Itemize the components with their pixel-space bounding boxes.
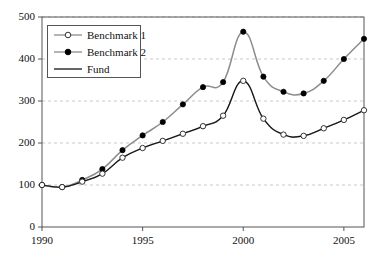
x-axis-tick-label: 2000 xyxy=(218,234,268,246)
legend-symbol-filled-circle-line xyxy=(53,45,83,59)
x-axis-tick-label: 2005 xyxy=(319,234,369,246)
legend-item-benchmark-1: Benchmark 1 xyxy=(48,26,140,43)
legend-symbol-plain-line xyxy=(53,62,83,76)
x-axis-tick-label: 1990 xyxy=(17,234,67,246)
y-axis-tick-label: 100 xyxy=(19,178,36,190)
legend-item-benchmark-2: Benchmark 2 xyxy=(48,43,140,60)
line-chart: 0100200300400500 1990199520002005 Benchm… xyxy=(0,0,378,266)
x-axis-tick-label: 1995 xyxy=(118,234,168,246)
y-axis-tick-label: 200 xyxy=(19,136,36,148)
legend-label-fund: Fund xyxy=(87,63,110,75)
legend-item-fund: Fund xyxy=(48,60,140,77)
chart-legend: Benchmark 1 Benchmark 2 Fund xyxy=(47,25,141,78)
y-axis-tick-label: 500 xyxy=(19,10,36,22)
legend-label-benchmark-2: Benchmark 2 xyxy=(87,46,146,58)
y-axis-tick-label: 400 xyxy=(19,52,36,64)
y-axis-tick-label: 0 xyxy=(30,220,36,232)
y-axis-tick-label: 300 xyxy=(19,94,36,106)
legend-symbol-open-circle-line xyxy=(53,28,83,42)
legend-label-benchmark-1: Benchmark 1 xyxy=(87,29,146,41)
